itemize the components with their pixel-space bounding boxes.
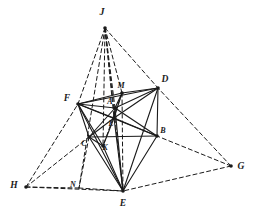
edge-GD: [158, 88, 231, 166]
edge-DE: [123, 88, 158, 191]
edge-GE: [123, 166, 231, 191]
dashed-edges-group: [26, 28, 231, 191]
edge-HF: [26, 104, 78, 187]
geometric-figure: JDFMALBCKEGHN: [0, 0, 260, 214]
vertex-node-F: [76, 102, 80, 106]
edge-HC: [26, 137, 89, 187]
edge-DB: [157, 88, 158, 136]
edge-JF: [78, 28, 105, 104]
edge-BE: [123, 136, 157, 191]
vertex-node-J: [103, 26, 107, 30]
vertex-label-L: L: [108, 119, 114, 128]
edge-FM: [78, 93, 122, 104]
vertex-node-D: [156, 86, 160, 90]
edge-CB: [89, 136, 157, 137]
edge-GB: [157, 136, 231, 166]
vertex-label-E: E: [119, 198, 126, 208]
edge-JK: [103, 28, 105, 146]
vertex-label-G: G: [238, 161, 245, 171]
edge-ME: [122, 93, 123, 191]
vertex-node-C: [87, 135, 91, 139]
vertex-label-A: A: [106, 97, 113, 106]
vertex-node-G: [229, 164, 233, 168]
vertex-node-H: [24, 185, 28, 189]
vertex-label-D: D: [161, 74, 169, 84]
vertex-label-J: J: [99, 6, 106, 17]
vertex-node-E: [121, 189, 125, 193]
vertex-label-H: H: [9, 180, 18, 190]
figure-canvas: JDFMALBCKEGHN: [0, 0, 260, 214]
vertex-nodes-group: [24, 26, 233, 193]
edge-LB: [114, 118, 157, 136]
vertex-node-A: [113, 106, 117, 110]
vertex-label-M: M: [116, 81, 125, 90]
vertex-label-B: B: [159, 126, 166, 135]
edge-JN: [79, 28, 105, 188]
vertex-label-F: F: [63, 93, 71, 103]
vertex-node-B: [155, 134, 159, 138]
vertex-node-M: [120, 91, 124, 95]
vertex-label-C: C: [81, 139, 87, 148]
vertex-label-K: K: [101, 143, 108, 152]
